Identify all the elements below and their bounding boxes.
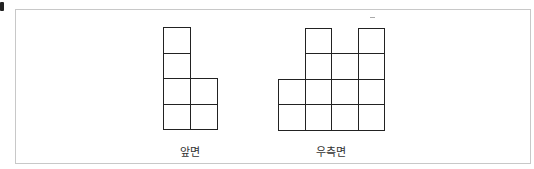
grid-cell	[305, 79, 333, 106]
grid-cell	[331, 79, 359, 106]
grid-cell	[190, 104, 218, 131]
grid-cell	[163, 53, 191, 80]
grid-cell	[163, 78, 191, 105]
grid-cell	[163, 104, 191, 131]
grid-cell	[163, 27, 191, 54]
front-view-label: 앞면	[180, 143, 200, 159]
grid-cell	[358, 104, 386, 131]
figure-frame	[15, 9, 531, 164]
grid-cell	[358, 53, 386, 80]
grid-cell	[190, 78, 218, 105]
grid-cell	[331, 53, 359, 80]
stray-mark	[370, 17, 375, 18]
grid-cell	[278, 79, 306, 106]
grid-cell	[358, 79, 386, 106]
grid-cell	[278, 104, 306, 131]
right-view-label: 우측면	[316, 143, 346, 159]
grid-cell	[305, 53, 333, 80]
question-marker	[0, 2, 4, 11]
grid-cell	[331, 104, 359, 131]
grid-cell	[305, 28, 333, 55]
grid-cell	[358, 28, 386, 55]
grid-cell	[305, 104, 333, 131]
